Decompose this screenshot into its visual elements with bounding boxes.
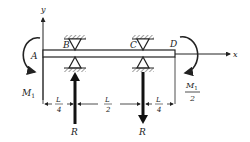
arrow-down-icon (138, 115, 148, 124)
reaction-c-down: R (138, 72, 148, 137)
moment-arc-icon (180, 37, 198, 73)
moment-right-denominator: 2 (189, 94, 195, 103)
dim-3-num: L (155, 96, 161, 104)
point-d-label: D (169, 39, 177, 49)
floor-hatch-b (64, 68, 86, 72)
pin-triangle-bottom-b (69, 57, 81, 68)
point-c-label: C (130, 40, 137, 50)
x-axis: x (175, 50, 238, 59)
floor-hatch-c (132, 68, 154, 72)
reaction-b-label: R (70, 127, 78, 137)
beam (43, 50, 175, 57)
point-b-label: B (62, 40, 70, 50)
moment-right-numerator: M1 (185, 81, 198, 91)
pin-triangle-bottom-c (137, 57, 149, 68)
dim-2-num: L (104, 96, 110, 104)
moment-m1-left: M1 (21, 38, 40, 99)
beam-diagram: y x A B C D M1 M1 (0, 0, 250, 142)
moment-m1-label: M1 (21, 88, 35, 99)
x-axis-label: x (233, 50, 238, 59)
pin-triangle-top-b (69, 39, 81, 50)
dim-3-den: 4 (156, 106, 161, 114)
moment-m1-half-right: M1 2 (180, 37, 200, 103)
dimension-line: L 4 L 2 L 4 (43, 57, 175, 114)
reaction-b-up: R (70, 72, 80, 137)
y-axis-label: y (40, 5, 46, 14)
arrow-up-icon (70, 72, 80, 81)
point-a-label: A (30, 51, 38, 61)
dim-1-num: L (55, 96, 61, 104)
reaction-c-label: R (138, 127, 146, 137)
dim-2-den: 2 (105, 106, 111, 114)
pin-triangle-top-c (137, 39, 149, 50)
dim-1-den: 4 (56, 106, 61, 114)
